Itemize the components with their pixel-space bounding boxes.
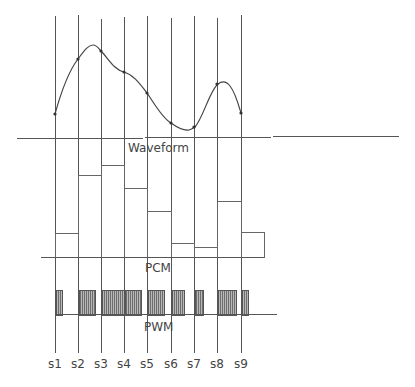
pcm-pwm-diagram: Waveform PCM PWM s1s2s3s4s5s6s7s8s9 [0, 0, 415, 387]
sample-dot-s9 [239, 111, 242, 114]
pwm-pulse-s8 [218, 290, 236, 315]
pcm-bar-s8 [217, 201, 241, 257]
pwm-pulse-s6 [172, 290, 184, 315]
pwm-pulse-s5 [148, 290, 164, 315]
pwm-pulse-s7 [195, 290, 203, 315]
pcm-bar-s6 [171, 243, 194, 257]
sample-dot-s3 [99, 49, 102, 52]
pcm-bar-s7 [194, 247, 217, 257]
pcm-bar-s9 [241, 232, 264, 257]
sample-label-s2: s2 [71, 357, 85, 371]
sample-dot-s7 [192, 125, 195, 128]
sample-dot-s4 [122, 70, 125, 73]
sample-labels: s1s2s3s4s5s6s7s8s9 [48, 357, 248, 371]
sample-label-s7: s7 [187, 357, 201, 371]
pcm-bar-s5 [147, 211, 171, 257]
pcm-bar-s1 [55, 233, 78, 257]
waveform-label: Waveform [128, 141, 189, 155]
pwm-pulse-s1 [56, 290, 62, 315]
waveform-curve [55, 45, 241, 130]
waveform-axis [17, 136, 401, 139]
pwm-pulse-s3 [102, 290, 124, 315]
pcm-bars [55, 165, 264, 257]
pwm-pulses [56, 290, 248, 315]
sample-dot-s2 [76, 57, 79, 60]
sample-label-s3: s3 [94, 357, 108, 371]
sample-label-s8: s8 [210, 357, 224, 371]
pwm-label: PWM [144, 320, 173, 334]
pcm-bar-s3 [101, 165, 124, 257]
pwm-pulse-s4 [125, 290, 141, 315]
sample-dot-s8 [215, 82, 218, 85]
pcm-label: PCM [145, 261, 171, 275]
pcm-bar-s4 [124, 188, 147, 257]
sample-dot-s5 [145, 91, 148, 94]
pwm-pulse-s9 [242, 290, 248, 315]
sample-label-s4: s4 [117, 357, 131, 371]
sample-label-s6: s6 [164, 357, 178, 371]
sample-label-s9: s9 [234, 357, 248, 371]
pwm-pulse-s2 [79, 290, 95, 315]
sample-dot-s1 [53, 112, 56, 115]
sample-dot-s6 [169, 121, 172, 124]
pcm-bar-s2 [78, 175, 101, 257]
sample-label-s1: s1 [48, 357, 62, 371]
sample-label-s5: s5 [140, 357, 154, 371]
